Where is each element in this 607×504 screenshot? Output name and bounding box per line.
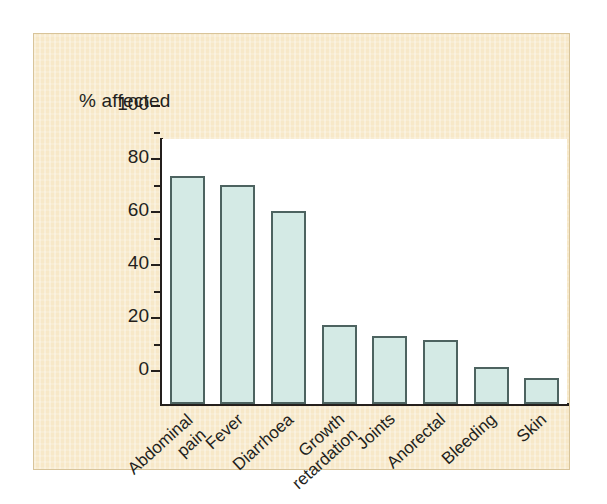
y-axis-tick-labels: 020406080100 xyxy=(74,34,149,471)
y-axis-major-tick xyxy=(151,370,160,372)
y-axis-major-tick xyxy=(151,158,160,160)
chart-panel: % affected 020406080100 AbdominalpainFev… xyxy=(33,33,570,470)
y-axis-minor-tick xyxy=(154,238,160,240)
y-axis-tick-label: 60 xyxy=(79,199,149,221)
x-axis-tick-label-line1: Fever xyxy=(202,410,247,453)
y-axis-major-tick xyxy=(151,317,160,319)
y-axis-major-tick xyxy=(151,105,160,107)
bar xyxy=(372,336,407,404)
bar xyxy=(170,176,205,404)
y-axis-minor-tick xyxy=(154,291,160,293)
x-axis-tick-label: Skin xyxy=(513,410,551,447)
bar xyxy=(474,367,509,404)
x-axis-tick-label: Fever xyxy=(202,410,248,454)
bar xyxy=(524,378,559,405)
bar xyxy=(322,325,357,405)
y-axis-tick-label: 40 xyxy=(79,252,149,274)
y-axis-tick-label: 100 xyxy=(79,93,149,115)
bar xyxy=(220,185,255,404)
bar xyxy=(271,211,306,404)
bar-series xyxy=(162,139,567,404)
bar xyxy=(423,340,458,404)
x-axis-tick-label-line1: Skin xyxy=(513,410,550,446)
figure: % affected 020406080100 AbdominalpainFev… xyxy=(0,0,607,504)
y-axis-tick-label: 80 xyxy=(79,146,149,168)
y-axis-tick-label: 0 xyxy=(79,358,149,380)
y-axis-major-tick xyxy=(151,264,160,266)
y-axis-major-tick xyxy=(151,211,160,213)
x-axis-tick-label: Bleeding xyxy=(438,410,501,469)
x-axis-tick-label-line1: Bleeding xyxy=(438,410,500,468)
x-axis-tick-label-line1: Joints xyxy=(353,410,399,454)
y-axis-minor-tick xyxy=(154,132,160,134)
y-axis-minor-tick xyxy=(154,185,160,187)
y-axis-minor-tick xyxy=(154,344,160,346)
y-axis-tick-label: 20 xyxy=(79,305,149,327)
x-axis-tick-labels: AbdominalpainFeverDiarrhoeaGrowthretarda… xyxy=(162,406,582,504)
